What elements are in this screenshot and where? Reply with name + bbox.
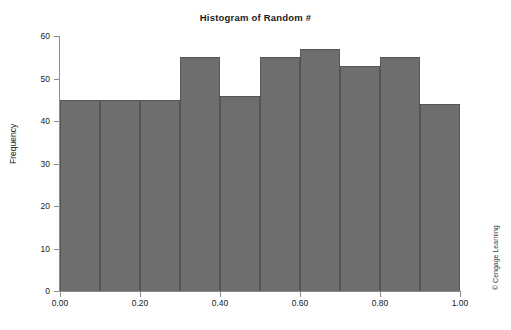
x-axis-tick-label: 1.00 xyxy=(435,298,485,308)
x-axis-tick-label: 0.40 xyxy=(195,298,245,308)
x-axis-tick-label: 0.60 xyxy=(275,298,325,308)
histogram-bar xyxy=(340,66,380,291)
x-axis-tick-mark xyxy=(60,292,61,297)
y-axis-tick-label: 60 xyxy=(0,31,50,41)
plot-area xyxy=(60,36,460,291)
histogram-bar xyxy=(180,57,220,291)
y-axis-tick-label: 30 xyxy=(0,159,50,169)
x-axis-tick-mark xyxy=(140,292,141,297)
x-axis-tick-mark xyxy=(220,292,221,297)
histogram-bar xyxy=(420,104,460,291)
histogram-bar xyxy=(100,100,140,291)
histogram-bar xyxy=(260,57,300,291)
y-axis-tick-label: 0 xyxy=(0,286,50,296)
histogram-bar xyxy=(220,96,260,292)
y-axis-tick-label: 20 xyxy=(0,201,50,211)
copyright-watermark: © Cengage Learning xyxy=(492,225,499,290)
x-axis-tick-label: 0.80 xyxy=(355,298,405,308)
x-axis-line xyxy=(59,291,461,292)
x-axis-tick-mark xyxy=(460,292,461,297)
chart-title: Histogram of Random # xyxy=(0,12,511,23)
y-axis-tick-label: 10 xyxy=(0,244,50,254)
histogram-figure: Histogram of Random # Frequency 01020304… xyxy=(0,0,511,330)
histogram-bar xyxy=(60,100,100,291)
y-axis-tick-label: 40 xyxy=(0,116,50,126)
histogram-bar xyxy=(380,57,420,291)
x-axis-tick-label: 0.00 xyxy=(35,298,85,308)
y-axis-tick-label: 50 xyxy=(0,74,50,84)
x-axis-tick-mark xyxy=(380,292,381,297)
histogram-bar xyxy=(300,49,340,291)
x-axis-tick-label: 0.20 xyxy=(115,298,165,308)
x-axis-tick-mark xyxy=(300,292,301,297)
histogram-bar xyxy=(140,100,180,291)
